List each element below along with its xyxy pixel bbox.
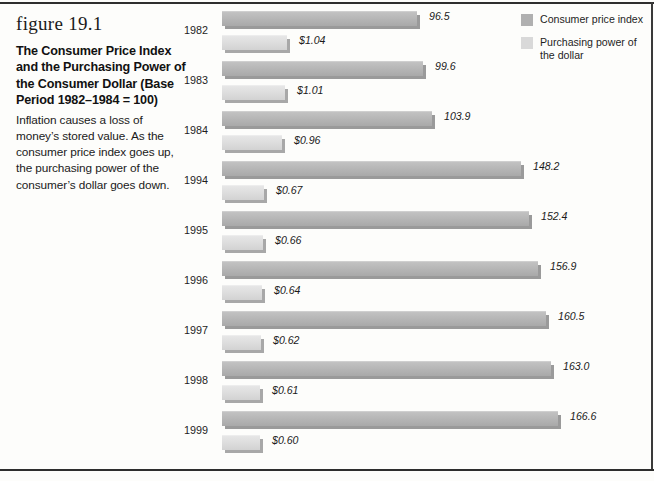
bar-value-dollar-1999: $0.60 [272,434,299,446]
bar-dollar-1999 [222,435,260,450]
bar-dollar-1984 [222,135,282,150]
year-label-1982: 1982 [150,24,208,36]
bar-cpi-1984 [222,111,432,126]
figure-container: figure 19.1 The Consumer Price Index and… [0,0,654,481]
bar-cpi-1982 [222,11,417,26]
year-label-1997: 1997 [150,324,208,336]
bar-dollar-1995 [222,235,263,250]
chart-group: 1994148.2$0.67 [0,158,654,208]
chart-group: 1999166.6$0.60 [0,408,654,458]
chart-group: 1998163.0$0.61 [0,358,654,408]
year-label-1994: 1994 [150,174,208,186]
bar-value-dollar-1997: $0.62 [273,334,300,346]
year-label-1984: 1984 [150,124,208,136]
bar-dollar-1998 [222,385,260,400]
year-label-1999: 1999 [150,424,208,436]
bottom-rule [0,469,654,471]
bar-value-dollar-1982: $1.04 [299,34,326,46]
year-label-1998: 1998 [150,374,208,386]
bar-dollar-1996 [222,285,262,300]
chart-group: 198296.5$1.04 [0,8,654,58]
bar-cpi-1995 [222,211,529,226]
plot-area: 198296.5$1.04198399.6$1.011984103.9$0.96… [0,8,654,464]
bar-cpi-1998 [222,361,551,376]
bar-cpi-1999 [222,411,558,426]
bar-value-dollar-1983: $1.01 [297,84,324,96]
bar-value-cpi-1999: 166.6 [570,410,597,422]
bar-cpi-1994 [222,161,521,176]
bar-value-dollar-1984: $0.96 [294,134,321,146]
top-rule [0,2,654,4]
chart-group: 1995152.4$0.66 [0,208,654,258]
bar-value-dollar-1994: $0.67 [276,184,303,196]
bar-dollar-1983 [222,85,285,100]
year-label-1996: 1996 [150,274,208,286]
bar-value-dollar-1995: $0.66 [275,234,302,246]
bar-value-dollar-1998: $0.61 [272,384,299,396]
bar-value-cpi-1994: 148.2 [533,160,560,172]
bar-value-cpi-1998: 163.0 [563,360,590,372]
bar-value-cpi-1983: 99.6 [435,60,456,72]
bar-cpi-1983 [222,61,423,76]
bar-value-cpi-1995: 152.4 [541,210,568,222]
bar-dollar-1997 [222,335,261,350]
bar-value-dollar-1996: $0.64 [274,284,301,296]
bar-value-cpi-1984: 103.9 [444,110,471,122]
year-label-1995: 1995 [150,224,208,236]
bar-dollar-1994 [222,185,264,200]
bar-cpi-1996 [222,261,538,276]
bar-value-cpi-1996: 156.9 [550,260,577,272]
chart-group: 198399.6$1.01 [0,58,654,108]
chart-group: 1997160.5$0.62 [0,308,654,358]
chart-group: 1996156.9$0.64 [0,258,654,308]
chart-group: 1984103.9$0.96 [0,108,654,158]
bar-cpi-1997 [222,311,546,326]
bar-dollar-1982 [222,35,287,50]
bar-value-cpi-1997: 160.5 [558,310,585,322]
bar-value-cpi-1982: 96.5 [429,10,450,22]
year-label-1983: 1983 [150,74,208,86]
